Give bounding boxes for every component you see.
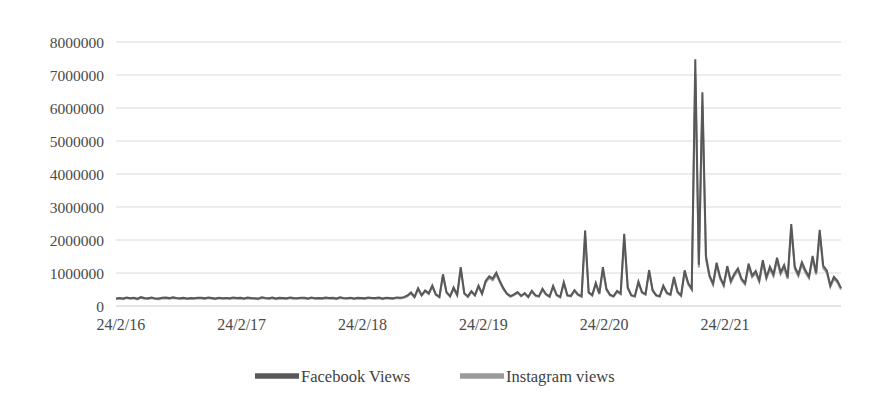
legend-label[interactable]: Instagram views: [506, 367, 615, 386]
y-axis-tick-labels: 0100000020000003000000400000050000006000…: [50, 34, 105, 315]
x-tick-label: 24/2/21: [701, 316, 750, 333]
x-tick-label: 24/2/19: [459, 316, 508, 333]
y-tick-label: 1000000: [50, 265, 105, 282]
y-tick-label: 3000000: [50, 199, 105, 216]
y-tick-label: 6000000: [50, 100, 105, 117]
y-tick-label: 4000000: [50, 166, 105, 183]
y-tick-label: 0: [96, 298, 104, 315]
x-tick-label: 24/2/16: [96, 316, 145, 333]
x-tick-label: 24/2/18: [338, 316, 387, 333]
y-tick-label: 5000000: [50, 133, 105, 150]
x-tick-label: 24/2/17: [217, 316, 266, 333]
social-media-views-line-chart: 0100000020000003000000400000050000006000…: [0, 0, 869, 409]
chart-container: 0100000020000003000000400000050000006000…: [0, 0, 869, 409]
y-tick-label: 8000000: [50, 34, 105, 51]
y-tick-label: 7000000: [50, 67, 105, 84]
x-tick-label: 24/2/20: [580, 316, 629, 333]
y-tick-label: 2000000: [50, 232, 105, 249]
legend-label[interactable]: Facebook Views: [301, 367, 410, 386]
chart-background: [0, 0, 869, 409]
